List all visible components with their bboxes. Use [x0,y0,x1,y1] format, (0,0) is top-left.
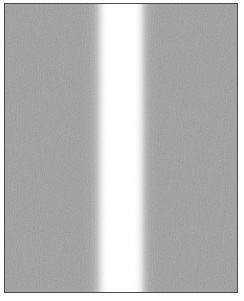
figure-margin [0,0,244,301]
figure-root: Grayscale vertical band Noisy mid-gray f… [0,0,244,301]
image-plate [5,4,237,292]
noise-texture-light [5,4,237,292]
image-frame [4,3,238,293]
